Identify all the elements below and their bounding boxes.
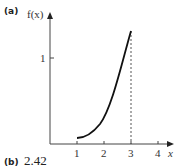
part-b-label: (b) (4, 157, 19, 167)
y-axis-arrow-icon (47, 12, 53, 19)
y-axis-label: f(x) (27, 8, 44, 21)
part-b-answer: 2.42 (24, 153, 47, 167)
curve-f (77, 31, 131, 138)
y-tick-1: 1 (40, 52, 46, 64)
x-tick-4: 4 (155, 147, 161, 159)
x-tick-3: 3 (128, 147, 134, 159)
x-axis-label: x (167, 147, 173, 159)
x-tick-1: 1 (74, 147, 80, 159)
x-tick-2: 2 (101, 147, 107, 159)
chart: 1 2 3 4 x 1 f(x) (0, 0, 181, 167)
